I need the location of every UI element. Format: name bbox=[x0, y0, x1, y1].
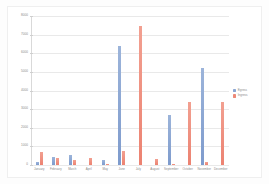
bar bbox=[73, 160, 76, 165]
bar bbox=[168, 115, 171, 165]
bar-group bbox=[147, 16, 164, 165]
bar bbox=[69, 155, 72, 165]
plot-area: 800070006000500040003000200010000 bbox=[31, 16, 229, 165]
y-axis-tick-label: 8000 bbox=[21, 14, 28, 17]
x-axis-tick-label: February bbox=[48, 166, 65, 178]
bar-group bbox=[213, 16, 230, 165]
bar bbox=[106, 164, 109, 165]
y-axis-tick-label: 7000 bbox=[21, 33, 28, 36]
y-axis-tick-label: 5000 bbox=[21, 70, 28, 73]
x-axis-tick-label: December bbox=[213, 166, 230, 178]
x-axis-tick-label: May bbox=[97, 166, 114, 178]
x-axis-tick-label: September bbox=[163, 166, 180, 178]
chart-container: 800070006000500040003000200010000 Januar… bbox=[0, 0, 269, 184]
x-axis-tick-label: January bbox=[31, 166, 48, 178]
bar-group bbox=[81, 16, 98, 165]
bar bbox=[139, 26, 142, 165]
y-axis-tick-label: 3000 bbox=[21, 107, 28, 110]
bar bbox=[89, 158, 92, 165]
chart-legend: EgressIngress bbox=[233, 89, 248, 98]
bar-group bbox=[48, 16, 65, 165]
y-axis-tick-label: 6000 bbox=[21, 52, 28, 55]
bar bbox=[52, 157, 55, 165]
y-axis-tick-label: 4000 bbox=[21, 89, 28, 92]
legend-swatch bbox=[233, 89, 236, 92]
bar bbox=[205, 162, 208, 165]
bar-group bbox=[180, 16, 197, 165]
legend-item: Ingress bbox=[233, 94, 248, 97]
x-axis-tick-label: August bbox=[147, 166, 164, 178]
bar-group bbox=[64, 16, 81, 165]
x-axis-labels: JanuaryFebruaryMarchAprilMayJuneJulyAugu… bbox=[31, 166, 229, 178]
bar bbox=[188, 102, 191, 165]
legend-label: Ingress bbox=[238, 94, 248, 97]
x-axis-tick-label: July bbox=[130, 166, 147, 178]
legend-swatch bbox=[233, 94, 236, 97]
x-axis-tick-label: November bbox=[196, 166, 213, 178]
bar-group bbox=[97, 16, 114, 165]
x-axis-tick-label: April bbox=[81, 166, 98, 178]
x-axis-tick-label: March bbox=[64, 166, 81, 178]
bar-group bbox=[163, 16, 180, 165]
bar-groups bbox=[31, 16, 229, 165]
legend-item: Egress bbox=[233, 89, 248, 92]
bar-group bbox=[196, 16, 213, 165]
bar-group bbox=[130, 16, 147, 165]
y-axis-tick-label: 0 bbox=[26, 163, 28, 166]
bar bbox=[122, 151, 125, 165]
x-axis-tick-label: October bbox=[180, 166, 197, 178]
bar bbox=[36, 162, 39, 165]
legend-label: Egress bbox=[238, 89, 247, 92]
bar bbox=[201, 68, 204, 165]
bar bbox=[172, 164, 175, 165]
bar bbox=[102, 160, 105, 165]
x-axis-tick-label: June bbox=[114, 166, 131, 178]
bar bbox=[155, 159, 158, 165]
bar bbox=[221, 102, 224, 165]
y-axis-tick-label: 1000 bbox=[21, 145, 28, 148]
bar bbox=[40, 152, 43, 165]
bar-group bbox=[114, 16, 131, 165]
bar-group bbox=[31, 16, 48, 165]
bar bbox=[56, 158, 59, 165]
bar bbox=[118, 46, 121, 165]
y-axis-tick-label: 2000 bbox=[21, 126, 28, 129]
